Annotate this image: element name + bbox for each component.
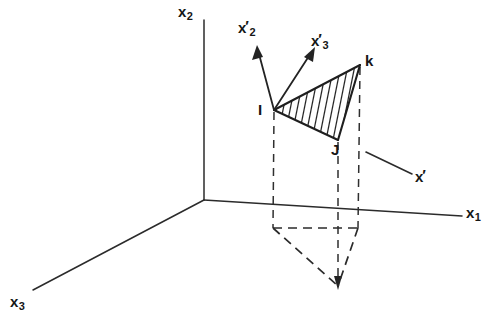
x1-axis-label-base: x bbox=[466, 204, 474, 221]
projector-line-i bbox=[273, 112, 274, 228]
x3-prime-label-sub: 3 bbox=[322, 39, 328, 51]
projected-triangle-group bbox=[273, 228, 358, 286]
x3-axis-line bbox=[33, 200, 204, 290]
x2-prime-axis-label: x′2 bbox=[238, 18, 256, 38]
x2-prime-label-sub: 2 bbox=[249, 26, 255, 38]
vertex-label-j: J bbox=[331, 142, 339, 157]
projected-edge-right bbox=[338, 228, 358, 286]
projected-edge-left bbox=[273, 228, 338, 286]
x2-axis-label-base: x bbox=[178, 3, 186, 20]
x1-axis-line bbox=[204, 200, 462, 216]
diagram-canvas bbox=[0, 0, 494, 327]
x3-axis-label-base: x bbox=[10, 293, 18, 310]
x3-axis-label: x3 bbox=[10, 294, 25, 312]
plane-leader-group bbox=[366, 152, 412, 174]
plane-x-prime-label: x′ bbox=[415, 167, 426, 184]
vertex-label-i: I bbox=[258, 102, 262, 117]
x1-axis-label: x1 bbox=[466, 205, 481, 223]
x2-axis-label: x2 bbox=[178, 4, 193, 22]
x3-axis-label-sub: 3 bbox=[19, 300, 25, 312]
x1-axis-label-sub: 1 bbox=[475, 211, 481, 223]
global-axes-group bbox=[33, 20, 462, 290]
figure-container: x2 x1 x3 x′2 x′3 x′ I J k bbox=[0, 0, 494, 327]
x3-prime-axis-label: x′3 bbox=[311, 31, 329, 51]
plane-leader-line bbox=[366, 152, 412, 174]
element-triangle-group bbox=[266, 50, 379, 160]
plane-label-mark: ′ bbox=[422, 166, 426, 183]
vertex-label-k: k bbox=[365, 53, 373, 68]
x2-axis-label-sub: 2 bbox=[187, 10, 193, 22]
projector-line-k bbox=[358, 67, 360, 228]
x2-prime-arrowhead bbox=[252, 45, 263, 60]
